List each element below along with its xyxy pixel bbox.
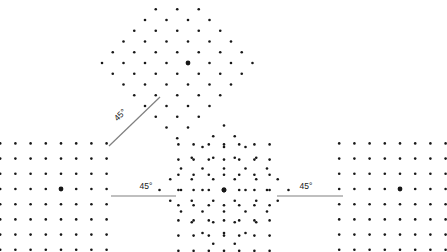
lattice-origin-dot xyxy=(59,187,64,192)
lattice-dot xyxy=(253,158,256,161)
lattice-dot xyxy=(268,158,271,161)
lattice-dot xyxy=(212,135,215,138)
lattice-dot xyxy=(45,142,48,145)
lattice-dot xyxy=(14,188,17,191)
lattice-dot xyxy=(75,249,78,252)
lattice-dot xyxy=(368,157,371,160)
lattice-dot xyxy=(223,232,226,235)
angle-left-center-label: 45° xyxy=(140,181,153,191)
lattice-dot xyxy=(187,40,190,43)
lattice-dot xyxy=(244,232,247,235)
lattice-dot xyxy=(75,142,78,145)
lattice-dot xyxy=(233,156,236,159)
lattice-dot xyxy=(197,115,200,118)
lattice-dot xyxy=(238,143,241,146)
lattice-dot xyxy=(414,218,417,221)
lattice-dot xyxy=(212,199,215,202)
lattice-dot xyxy=(180,167,183,170)
lattice-dot xyxy=(268,189,271,192)
lattice-dot xyxy=(219,51,222,54)
lattice-dot xyxy=(266,167,269,170)
lattice-dot xyxy=(353,157,356,160)
lattice-dot xyxy=(238,158,241,161)
lattice-dot xyxy=(165,62,168,65)
lattice-dot xyxy=(176,8,179,11)
lattice-dot xyxy=(233,178,236,181)
lattice-dot xyxy=(177,219,180,222)
lattice-dot xyxy=(233,199,236,202)
lattice-dot xyxy=(14,203,17,206)
lattice-dot xyxy=(90,142,93,145)
lattice-dot xyxy=(190,221,193,224)
lattice-dot xyxy=(268,219,271,222)
lattice-dot xyxy=(223,234,226,237)
lattice-dot xyxy=(14,157,17,160)
lattice-dot xyxy=(399,249,402,252)
lattice-dot xyxy=(208,19,211,22)
lattice-dot xyxy=(192,189,195,192)
lattice-dot xyxy=(414,157,417,160)
lattice-dot xyxy=(45,218,48,221)
lattice-dot xyxy=(429,218,432,221)
lattice-dot xyxy=(208,83,211,86)
lattice-dot xyxy=(414,188,417,191)
lattice-dot xyxy=(384,157,387,160)
lattice-dot xyxy=(197,94,200,97)
lattice-dot xyxy=(14,142,17,145)
lattice-dot xyxy=(230,40,233,43)
lattice-dot xyxy=(268,143,271,146)
lattice-dot xyxy=(338,157,341,160)
lattice-dot xyxy=(75,173,78,176)
lattice-dot xyxy=(60,249,63,252)
lattice-dot xyxy=(45,233,48,236)
lattice-dot xyxy=(105,173,108,176)
lattice-dot xyxy=(338,173,341,176)
lattice-dot xyxy=(122,83,125,86)
lattice-dot xyxy=(353,188,356,191)
lattice-dot xyxy=(201,167,204,170)
lattice-dot xyxy=(208,40,211,43)
lattice-dot xyxy=(384,218,387,221)
lattice-dot xyxy=(287,189,290,192)
lattice-dot xyxy=(414,249,417,252)
lattice-dot xyxy=(197,8,200,11)
lattice-dot xyxy=(177,189,180,192)
lattice-dot xyxy=(176,72,179,75)
lattice-dot xyxy=(177,158,180,161)
lattice-dot xyxy=(276,199,279,202)
lattice-dot xyxy=(197,51,200,54)
lattice-dot xyxy=(338,188,341,191)
lattice-dot xyxy=(192,143,195,146)
lattice-dot xyxy=(255,199,258,202)
lattice-dot xyxy=(45,188,48,191)
lattice-dot xyxy=(29,233,32,236)
lattice-dot xyxy=(233,242,236,245)
lattice-dot xyxy=(192,204,195,207)
lattice-dot xyxy=(75,218,78,221)
lattice-dot xyxy=(60,173,63,176)
lattice-dot xyxy=(238,189,241,192)
lattice-dot xyxy=(165,105,168,108)
lattice-dot xyxy=(90,218,93,221)
lattice-dot xyxy=(105,188,108,191)
lattice-dot xyxy=(212,242,215,245)
lattice-dot xyxy=(201,210,204,213)
lattice-dot xyxy=(276,178,279,181)
lattice-dot xyxy=(111,51,114,54)
lattice-dot xyxy=(268,204,271,207)
lattice-dot xyxy=(169,199,172,202)
lattice-dot xyxy=(192,219,195,222)
lattice-dot xyxy=(101,62,104,65)
lattice-dot xyxy=(266,189,269,192)
lattice-dot xyxy=(338,203,341,206)
lattice-dot xyxy=(244,146,247,149)
lattice-dot xyxy=(180,210,183,213)
lattice-dot xyxy=(90,249,93,252)
lattice-dot xyxy=(197,72,200,75)
lattice-dot xyxy=(233,221,236,224)
lattice-dot xyxy=(429,142,432,145)
lattice-dot xyxy=(223,167,226,170)
lattice-dot xyxy=(208,62,211,65)
lattice-dot xyxy=(219,29,222,32)
lattice-dot xyxy=(223,204,226,207)
